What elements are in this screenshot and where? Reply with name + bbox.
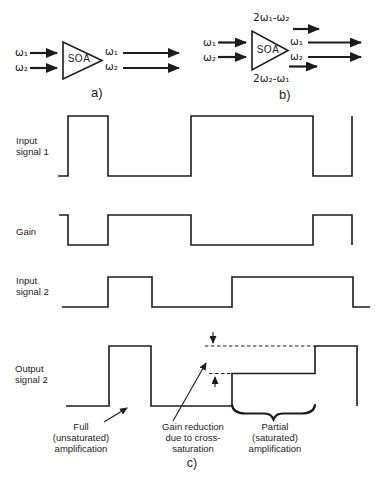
partial-annotation-line2: (saturated) [230, 432, 320, 443]
a-input1-label: ω₁ [15, 46, 28, 58]
partial-annotation-line1: Partial [230, 421, 320, 432]
full-amplification-pointer [104, 408, 127, 422]
b-fwm-top-label: 2ω₁-ω₂ [253, 11, 289, 23]
gain-reduction-pointer [173, 363, 206, 421]
input-signal-1-label-line2: signal 1 [16, 146, 49, 157]
c-caption: c) [180, 457, 204, 470]
gain-label: Gain [16, 226, 36, 237]
figure-artwork [0, 0, 377, 481]
partial-amplification-annotation: Partial (saturated) amplification [230, 421, 320, 454]
partial-region-brace [232, 405, 315, 420]
a-output2-label: ω₂ [105, 60, 118, 72]
input-signal-2-label-line1: Input [16, 275, 49, 286]
input-signal-1-label: Input signal 1 [16, 135, 49, 157]
b-soa-label: SOA [252, 45, 284, 55]
input-signal-2-label: Input signal 2 [16, 275, 49, 297]
gain-reduction-line1: Gain reduction [148, 421, 238, 432]
b-caption: b) [279, 88, 291, 101]
a-caption: a) [91, 86, 103, 99]
a-input2-label: ω₂ [15, 61, 28, 73]
full-amplification-annotation: Full (unsaturated) amplification [38, 421, 124, 454]
input-signal-1-trace [58, 116, 352, 176]
gain-reduction-line3: saturation [148, 443, 238, 454]
b-input2-label: ω₂ [203, 51, 216, 63]
input-signal-2-trace [62, 277, 370, 307]
b-input1-label: ω₁ [203, 36, 216, 48]
gain-reduction-annotation: Gain reduction due to cross- saturation [148, 421, 238, 454]
b-fwm-bottom-label: 2ω₂-ω₁ [253, 72, 289, 84]
gain-reduction-line2: due to cross- [148, 432, 238, 443]
input-signal-1-label-line1: Input [16, 135, 49, 146]
gain-trace [59, 215, 352, 245]
gain-label-line1: Gain [16, 226, 36, 237]
b-output2-label: ω₂ [290, 50, 303, 62]
output-signal-2-label-line1: Output [15, 363, 48, 374]
output-signal-2-label: Output signal 2 [15, 363, 48, 385]
soa-figure: ω₁ ω₂ SOA ω₁ ω₂ a) 2ω₁-ω₂ ω₁ ω₂ SOA ω₁ ω… [0, 0, 377, 481]
input-signal-2-label-line2: signal 2 [16, 286, 49, 297]
b-output1-label: ω₁ [290, 35, 303, 47]
full-annotation-line1: Full [38, 421, 124, 432]
output-signal-2-trace [66, 346, 357, 406]
output-signal-2-label-line2: signal 2 [15, 374, 48, 385]
a-soa-label: SOA [63, 54, 95, 64]
a-output1-label: ω₁ [105, 45, 118, 57]
full-annotation-line2: (unsaturated) [38, 432, 124, 443]
partial-annotation-line3: amplification [230, 443, 320, 454]
full-annotation-line3: amplification [38, 443, 124, 454]
